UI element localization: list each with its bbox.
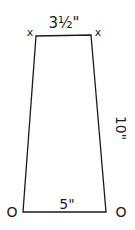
trapezoid-outline (23, 35, 106, 212)
bottom-width-label: 5" (59, 196, 74, 212)
trapezoid-diagram: 3½" x x 10" 5" O O (0, 0, 135, 230)
bottom-right-o-marker: O (115, 204, 126, 220)
bottom-left-o-marker: O (6, 204, 17, 220)
top-right-x-marker: x (95, 26, 102, 39)
top-width-label: 3½" (49, 14, 80, 32)
side-height-label: 10" (113, 116, 129, 140)
top-left-x-marker: x (27, 26, 34, 39)
